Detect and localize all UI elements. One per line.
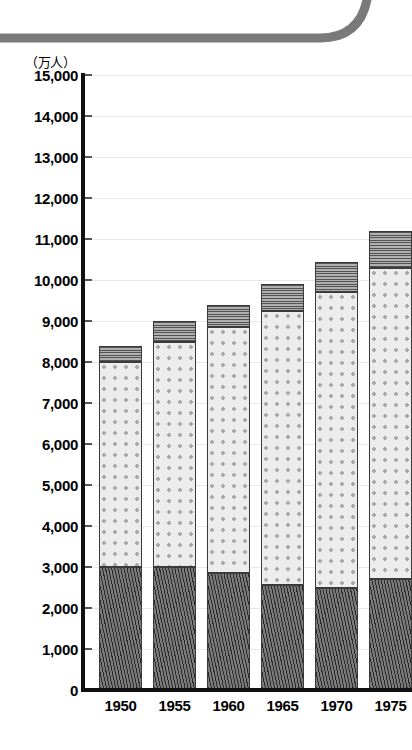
x-tick-label-1965: 1965 — [253, 697, 313, 714]
y-axis-line — [81, 73, 85, 692]
y-tick-mark-14000 — [85, 115, 92, 117]
y-tick-label-5000: 5,000 — [0, 477, 78, 494]
bar-1975[interactable] — [369, 75, 412, 690]
bar-1960[interactable] — [207, 75, 250, 690]
y-tick-mark-11000 — [85, 238, 92, 240]
bar-1950-middle-segment[interactable] — [99, 362, 142, 567]
y-tick-label-9000: 9,000 — [0, 313, 78, 330]
y-axis-tick-labels: 15,00014,00013,00012,00011,00010,0009,00… — [0, 0, 78, 750]
bar-1965-middle-segment[interactable] — [261, 311, 304, 586]
y-tick-label-14000: 14,000 — [0, 108, 78, 125]
x-tick-label-1970: 1970 — [307, 697, 367, 714]
y-tick-mark-7000 — [85, 402, 92, 404]
bar-1950[interactable] — [99, 75, 142, 690]
x-tick-label-1960: 1960 — [199, 697, 259, 714]
y-tick-label-2000: 2,000 — [0, 600, 78, 617]
y-tick-label-11000: 11,000 — [0, 231, 78, 248]
y-tick-label-7000: 7,000 — [0, 395, 78, 412]
y-tick-mark-3000 — [85, 566, 92, 568]
bar-1955-middle-segment[interactable] — [153, 342, 196, 568]
bar-1955-bottom-segment[interactable] — [153, 567, 196, 690]
bar-1975-bottom-segment[interactable] — [369, 579, 412, 690]
y-tick-mark-13000 — [85, 156, 92, 158]
bar-1970-top-segment[interactable] — [315, 262, 358, 293]
y-tick-mark-2000 — [85, 607, 92, 609]
y-tick-label-6000: 6,000 — [0, 436, 78, 453]
y-tick-mark-10000 — [85, 279, 92, 281]
y-tick-label-4000: 4,000 — [0, 518, 78, 535]
y-tick-label-13000: 13,000 — [0, 149, 78, 166]
bar-1975-top-segment[interactable] — [369, 231, 412, 268]
y-tick-label-1000: 1,000 — [0, 641, 78, 658]
y-tick-mark-1000 — [85, 648, 92, 650]
bar-1950-bottom-segment[interactable] — [99, 567, 142, 690]
bar-1960-bottom-segment[interactable] — [207, 573, 250, 690]
population-stacked-bar-chart: （万人） 15,00014,00013,00012,00011,00010,00… — [0, 0, 412, 750]
bar-1955[interactable] — [153, 75, 196, 690]
bar-1950-top-segment[interactable] — [99, 346, 142, 362]
x-tick-label-1955: 1955 — [145, 697, 205, 714]
bar-1960-top-segment[interactable] — [207, 305, 250, 328]
bar-1970-bottom-segment[interactable] — [315, 588, 358, 691]
bar-1965[interactable] — [261, 75, 304, 690]
bar-1965-top-segment[interactable] — [261, 284, 304, 311]
y-tick-mark-8000 — [85, 361, 92, 363]
bars-layer — [85, 75, 412, 690]
x-axis-line — [81, 688, 412, 692]
bar-1975-middle-segment[interactable] — [369, 268, 412, 580]
bar-1960-middle-segment[interactable] — [207, 327, 250, 573]
bar-1965-bottom-segment[interactable] — [261, 585, 304, 690]
y-tick-label-10000: 10,000 — [0, 272, 78, 289]
y-tick-mark-4000 — [85, 525, 92, 527]
bar-1955-top-segment[interactable] — [153, 321, 196, 342]
x-tick-label-1975: 1975 — [361, 697, 412, 714]
y-tick-label-15000: 15,000 — [0, 67, 78, 84]
y-tick-label-0: 0 — [0, 682, 78, 699]
y-tick-label-12000: 12,000 — [0, 190, 78, 207]
y-tick-mark-6000 — [85, 443, 92, 445]
y-tick-mark-5000 — [85, 484, 92, 486]
y-tick-label-8000: 8,000 — [0, 354, 78, 371]
bar-1970-middle-segment[interactable] — [315, 292, 358, 587]
y-tick-mark-12000 — [85, 197, 92, 199]
page-bleed-through-text — [0, 726, 412, 750]
y-tick-mark-15000 — [85, 74, 92, 76]
x-tick-label-1950: 1950 — [91, 697, 151, 714]
bar-1970[interactable] — [315, 75, 358, 690]
y-tick-mark-9000 — [85, 320, 92, 322]
y-tick-label-3000: 3,000 — [0, 559, 78, 576]
